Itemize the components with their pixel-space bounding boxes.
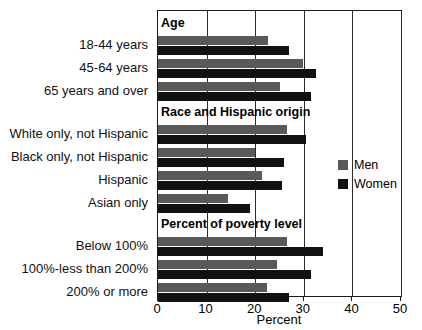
bar-men xyxy=(158,260,277,269)
category-label: 65 years and over xyxy=(44,84,148,97)
category-label-column: 18-44 years45-64 years65 years and overW… xyxy=(0,10,152,295)
bar-men xyxy=(158,148,255,157)
legend: Men Women xyxy=(338,157,397,195)
bar-women xyxy=(158,270,311,279)
legend-item-women: Women xyxy=(338,176,397,192)
bar-women xyxy=(158,158,284,167)
plot-area: AgeRace and Hispanic originPercent of po… xyxy=(157,10,402,297)
section-header: Age xyxy=(161,17,185,30)
section-header: Race and Hispanic origin xyxy=(161,106,310,119)
bar-men xyxy=(158,125,287,134)
category-label: 18-44 years xyxy=(79,38,148,51)
bar-women xyxy=(158,135,306,144)
section-header: Percent of poverty level xyxy=(161,218,302,231)
bar-men xyxy=(158,194,228,203)
bar-women xyxy=(158,247,323,256)
category-label: 100%-less than 200% xyxy=(22,262,148,275)
bar-men xyxy=(158,237,287,246)
category-label: Hispanic xyxy=(98,173,148,186)
x-axis-title: Percent xyxy=(157,313,401,326)
bar-men xyxy=(158,82,280,91)
gridline xyxy=(352,11,353,296)
bar-men xyxy=(158,171,262,180)
category-label: White only, not Hispanic xyxy=(10,127,149,140)
legend-label-men: Men xyxy=(354,157,378,173)
legend-swatch-men-icon xyxy=(338,160,348,170)
bar-women xyxy=(158,92,311,101)
gridline xyxy=(401,11,402,296)
category-label: Black only, not Hispanic xyxy=(11,150,148,163)
plot-inner: AgeRace and Hispanic originPercent of po… xyxy=(158,11,401,296)
bar-women xyxy=(158,69,316,78)
legend-swatch-women-icon xyxy=(338,179,348,189)
category-label: Asian only xyxy=(88,196,148,209)
bar-chart: 18-44 years45-64 years65 years and overW… xyxy=(0,0,422,330)
bar-women xyxy=(158,46,289,55)
legend-item-men: Men xyxy=(338,157,397,173)
cropped-title-remnant xyxy=(0,0,422,6)
category-label: Below 100% xyxy=(76,239,148,252)
category-label: 200% or more xyxy=(66,285,148,298)
bar-women xyxy=(158,181,282,190)
bar-women xyxy=(158,204,250,213)
bar-men xyxy=(158,283,267,292)
legend-label-women: Women xyxy=(354,176,397,192)
bar-men xyxy=(158,36,268,45)
bar-men xyxy=(158,59,303,68)
category-label: 45-64 years xyxy=(79,61,148,74)
